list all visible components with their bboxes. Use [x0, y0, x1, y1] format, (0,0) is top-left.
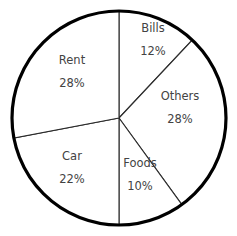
pie-slice-rent[interactable]: [12, 11, 119, 138]
pie-chart: Bills12%Others28%Foods10%Car22%Rent28%: [0, 0, 237, 236]
pie-chart-canvas: [0, 0, 237, 236]
